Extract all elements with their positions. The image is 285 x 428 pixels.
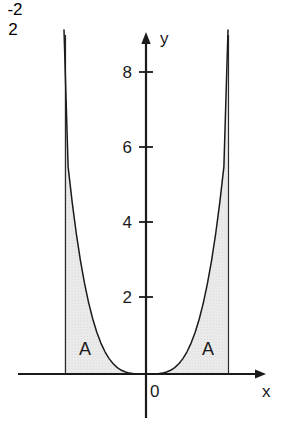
shaded-region-left: [64, 34, 146, 374]
y-tick-label-8: 8: [116, 64, 132, 81]
plot-canvas: [0, 0, 285, 428]
shaded-region-right: [146, 34, 228, 374]
y-tick-label-4: 4: [116, 214, 132, 231]
origin-label: 0: [150, 383, 159, 400]
x-axis-label: x: [262, 383, 271, 400]
y-tick-label-6: 6: [116, 139, 132, 156]
graph-figure: 8 6 4 2 -2 2 0 y x A A: [0, 0, 285, 428]
region-label-right: A: [202, 340, 214, 358]
region-label-left: A: [79, 340, 91, 358]
y-axis-label: y: [160, 30, 169, 47]
y-tick-label-2: 2: [116, 289, 132, 306]
y-axis: [141, 32, 150, 418]
